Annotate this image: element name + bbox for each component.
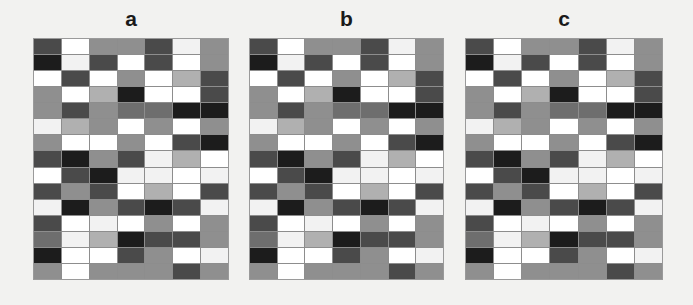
heatmap-cell (250, 39, 277, 54)
heatmap-cell (34, 248, 61, 263)
heatmap-cell (550, 200, 577, 215)
heatmap-cell (416, 119, 443, 134)
heatmap-cell (305, 264, 332, 279)
heatmap-cell (494, 71, 521, 86)
heatmap-cell (416, 71, 443, 86)
heatmap-cell (494, 200, 521, 215)
heatmap-cell (635, 216, 662, 231)
panel-c: c (466, 8, 662, 280)
heatmap-cell (522, 135, 549, 150)
heatmap-cell (34, 264, 61, 279)
heatmap-cell (145, 264, 172, 279)
heatmap-cell (494, 135, 521, 150)
heatmap-cell (333, 168, 360, 183)
heatmap-cell (305, 151, 332, 166)
heatmap-cell (522, 200, 549, 215)
heatmap-cell (579, 200, 606, 215)
heatmap-cell (201, 200, 228, 215)
heatmap-cell (34, 232, 61, 247)
heatmap-cell (550, 184, 577, 199)
heatmap-cell (466, 200, 493, 215)
heatmap-cell (34, 151, 61, 166)
heatmap-cell (635, 119, 662, 134)
heatmap-cell (145, 103, 172, 118)
heatmap-cell (550, 264, 577, 279)
heatmap-cell (118, 151, 145, 166)
heatmap-cell (333, 71, 360, 86)
heatmap-cell (389, 151, 416, 166)
heatmap-cell (118, 71, 145, 86)
heatmap-cell (607, 216, 634, 231)
heatmap-cell (333, 39, 360, 54)
heatmap-cell (466, 232, 493, 247)
heatmap-cell (333, 135, 360, 150)
heatmap-cell (361, 168, 388, 183)
heatmap-cell (250, 200, 277, 215)
heatmap-cell (62, 87, 89, 102)
heatmap-cell (522, 151, 549, 166)
heatmap-cell (389, 135, 416, 150)
heatmap-cell (550, 119, 577, 134)
heatmap-grid-b (249, 38, 444, 280)
heatmap-cell (201, 168, 228, 183)
heatmap-cell (34, 119, 61, 134)
heatmap-cell (550, 55, 577, 70)
heatmap-cell (522, 248, 549, 263)
panel-label-b: b (340, 8, 353, 29)
heatmap-cell (607, 71, 634, 86)
heatmap-cell (522, 71, 549, 86)
heatmap-cell (635, 200, 662, 215)
heatmap-cell (201, 264, 228, 279)
heatmap-cell (278, 55, 305, 70)
heatmap-cell (466, 168, 493, 183)
heatmap-cell (607, 264, 634, 279)
heatmap-cell (333, 216, 360, 231)
heatmap-cell (416, 264, 443, 279)
heatmap-cell (90, 135, 117, 150)
panel-label-a: a (125, 8, 137, 29)
heatmap-cell (494, 151, 521, 166)
heatmap-cell (278, 103, 305, 118)
heatmap-cell (305, 55, 332, 70)
heatmap-cell (62, 151, 89, 166)
heatmap-cell (278, 119, 305, 134)
heatmap-cell (201, 87, 228, 102)
heatmap-cell (522, 119, 549, 134)
heatmap-cell (494, 264, 521, 279)
heatmap-cell (607, 55, 634, 70)
heatmap-cell (333, 248, 360, 263)
heatmap-cell (607, 103, 634, 118)
heatmap-cell (522, 232, 549, 247)
heatmap-cell (145, 248, 172, 263)
heatmap-cell (389, 55, 416, 70)
heatmap-cell (34, 71, 61, 86)
heatmap-cell (389, 264, 416, 279)
heatmap-cell (416, 87, 443, 102)
heatmap-cell (278, 200, 305, 215)
heatmap-cell (466, 55, 493, 70)
heatmap-cell (118, 264, 145, 279)
heatmap-cell (118, 87, 145, 102)
heatmap-cell (607, 184, 634, 199)
heatmap-cell (466, 216, 493, 231)
heatmap-cell (389, 103, 416, 118)
heatmap-cell (361, 248, 388, 263)
heatmap-cell (389, 71, 416, 86)
heatmap-cell (333, 264, 360, 279)
heatmap-cell (361, 103, 388, 118)
heatmap-cell (607, 87, 634, 102)
panel-b: b (250, 8, 443, 280)
heatmap-cell (278, 39, 305, 54)
heatmap-cell (250, 151, 277, 166)
heatmap-cell (62, 39, 89, 54)
heatmap-cell (145, 71, 172, 86)
heatmap-cell (305, 184, 332, 199)
heatmap-cell (250, 184, 277, 199)
heatmap-cell (361, 71, 388, 86)
heatmap-cell (579, 184, 606, 199)
heatmap-cell (305, 232, 332, 247)
heatmap-cell (333, 87, 360, 102)
heatmap-cell (466, 87, 493, 102)
heatmap-cell (466, 184, 493, 199)
heatmap-cell (494, 248, 521, 263)
